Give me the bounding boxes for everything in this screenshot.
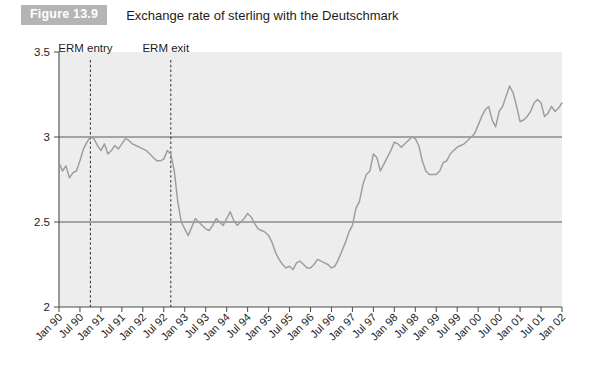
event-label: ERM exit — [142, 42, 189, 54]
x-axis-ticks — [59, 307, 562, 312]
y-axis-labels: 22.533.5 — [34, 46, 50, 313]
y-tick-label: 2 — [44, 301, 50, 313]
figure-title: Exchange rate of sterling with the Deuts… — [126, 8, 398, 23]
line-chart: 22.533.5 Jan 90Jul 90Jan 91Jul 91Jan 92J… — [0, 30, 593, 371]
event-label: ERM entry — [58, 42, 113, 54]
figure-number-badge: Figure 13.9 — [21, 5, 107, 25]
x-axis-labels: Jan 90Jul 90Jan 91Jul 91Jan 92Jul 92Jan … — [33, 311, 568, 343]
y-tick-label: 3 — [44, 131, 50, 143]
plot-background — [59, 52, 562, 307]
y-axis-ticks — [54, 52, 59, 307]
y-tick-label: 3.5 — [34, 46, 50, 58]
y-tick-label: 2.5 — [34, 216, 50, 228]
figure-header: Figure 13.9 Exchange rate of sterling wi… — [0, 0, 593, 30]
chart-plot-area: 22.533.5 Jan 90Jul 90Jan 91Jul 91Jan 92J… — [0, 30, 593, 371]
figure-container: Figure 13.9 Exchange rate of sterling wi… — [0, 0, 593, 371]
